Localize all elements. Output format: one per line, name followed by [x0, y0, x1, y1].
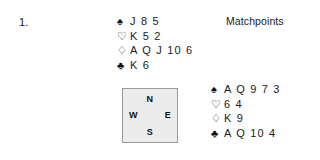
compass-north-label: N: [123, 94, 177, 104]
north-club-cards: K 6: [130, 58, 150, 73]
north-spade-cards: J 8 5: [130, 14, 160, 29]
diamond-icon: ♢: [117, 43, 130, 58]
east-diamond-row: ♢ K 9: [211, 111, 281, 126]
east-hand: ♠ A Q 9 7 3 ♡ 6 4 ♢ K 9 ♣ A Q 10 4: [211, 82, 281, 140]
north-hand: ♠ J 8 5 ♡ K 5 2 ♢ A Q J 10 6 ♣ K 6: [117, 14, 193, 72]
north-heart-row: ♡ K 5 2: [117, 29, 193, 44]
east-club-row: ♣ A Q 10 4: [211, 126, 281, 141]
north-heart-cards: K 5 2: [130, 29, 162, 44]
compass-west-label: W: [129, 110, 138, 120]
east-club-cards: A Q 10 4: [224, 126, 276, 141]
compass-east-label: E: [165, 110, 171, 120]
club-icon: ♣: [117, 58, 130, 73]
compass-south-label: S: [123, 127, 177, 137]
spade-icon: ♠: [117, 14, 130, 29]
north-diamond-row: ♢ A Q J 10 6: [117, 43, 193, 58]
compass-box: N W E S: [122, 88, 178, 143]
spade-icon: ♠: [211, 82, 224, 97]
scoring-format-label: Matchpoints: [226, 15, 284, 27]
east-spade-cards: A Q 9 7 3: [224, 82, 281, 97]
north-diamond-cards: A Q J 10 6: [130, 43, 193, 58]
north-spade-row: ♠ J 8 5: [117, 14, 193, 29]
east-heart-row: ♡ 6 4: [211, 97, 281, 112]
deal-number: 1.: [19, 16, 29, 28]
north-club-row: ♣ K 6: [117, 58, 193, 73]
east-heart-cards: 6 4: [224, 97, 243, 112]
diamond-icon: ♢: [211, 111, 224, 126]
heart-icon: ♡: [211, 97, 224, 112]
club-icon: ♣: [211, 126, 224, 141]
east-spade-row: ♠ A Q 9 7 3: [211, 82, 281, 97]
east-diamond-cards: K 9: [224, 111, 244, 126]
heart-icon: ♡: [117, 29, 130, 44]
